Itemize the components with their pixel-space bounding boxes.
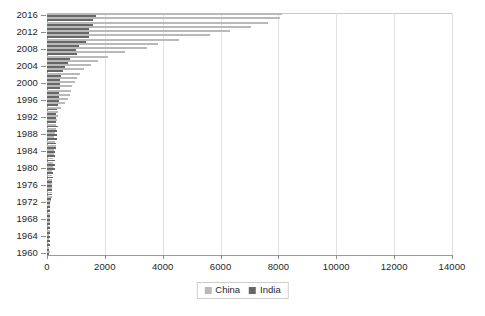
bar-india-1962 (47, 244, 50, 246)
bar-india-1992 (47, 117, 56, 119)
bar-india-1986 (47, 143, 56, 145)
y-tick-label-1988: 1988 (0, 129, 38, 138)
bar-india-1964 (47, 236, 50, 238)
bar-india-1966 (47, 227, 50, 229)
x-tick-10000 (336, 255, 337, 259)
plot-area (47, 13, 452, 255)
y-tick-2000 (41, 83, 46, 84)
bar-india-2007 (47, 53, 77, 55)
x-tick-label-12000: 12000 (381, 261, 408, 272)
x-tick-4000 (163, 255, 164, 259)
gridline-x-10000 (336, 13, 337, 255)
bar-india-1977 (47, 181, 52, 183)
x-tick-8000 (278, 255, 279, 259)
bar-india-1979 (47, 172, 53, 174)
legend-label-china: China (215, 285, 240, 295)
bar-india-1975 (47, 189, 52, 191)
x-tick-label-6000: 6000 (210, 261, 232, 272)
bar-india-1995 (47, 104, 58, 106)
y-tick-1964 (41, 236, 46, 237)
bar-india-1989 (47, 130, 57, 132)
y-tick-label-2004: 2004 (0, 61, 38, 70)
y-tick-label-2012: 2012 (0, 27, 38, 36)
gridline-x-2000 (105, 13, 106, 255)
y-tick-1972 (41, 202, 46, 203)
bar-india-1993 (47, 113, 56, 115)
bar-india-1974 (47, 194, 52, 196)
x-tick-label-8000: 8000 (268, 261, 290, 272)
gridline-x-14000 (452, 13, 453, 255)
y-tick-label-1964: 1964 (0, 231, 38, 240)
x-tick-label-2000: 2000 (94, 261, 116, 272)
bar-india-1963 (47, 240, 50, 242)
y-tick-label-1976: 1976 (0, 180, 38, 189)
y-tick-label-2008: 2008 (0, 44, 38, 53)
y-tick-1996 (41, 100, 46, 101)
bar-india-1997 (47, 96, 59, 98)
y-tick-label-2016: 2016 (0, 10, 38, 19)
bar-chart: 2016201220082004200019961992198819841980… (0, 0, 485, 316)
x-tick-12000 (394, 255, 395, 259)
bar-india-1994 (47, 109, 57, 111)
x-axis-line (47, 255, 452, 256)
bar-india-2013 (47, 28, 89, 30)
bar-india-1969 (47, 215, 50, 217)
bar-india-2010 (47, 41, 86, 43)
bar-india-2006 (47, 58, 70, 60)
bar-india-2009 (47, 45, 79, 47)
gridline-x-4000 (163, 13, 164, 255)
y-tick-2012 (41, 32, 46, 33)
bar-india-1970 (47, 210, 50, 212)
legend-swatch-icon-china (204, 287, 211, 294)
legend-item-china[interactable]: China (204, 285, 240, 295)
y-tick-1980 (41, 168, 46, 169)
y-tick-label-1980: 1980 (0, 163, 38, 172)
gridline-x-6000 (221, 13, 222, 255)
bar-india-1965 (47, 232, 50, 234)
x-tick-14000 (452, 255, 453, 259)
y-tick-label-1984: 1984 (0, 146, 38, 155)
bar-india-1991 (47, 121, 56, 123)
bar-india-2005 (47, 62, 68, 64)
bar-india-1990 (47, 126, 58, 128)
gridline-x-12000 (394, 13, 395, 255)
bar-india-1981 (47, 164, 55, 166)
bar-india-1985 (47, 147, 56, 149)
bar-india-1971 (47, 206, 50, 208)
x-tick-label-0: 0 (44, 261, 49, 272)
bar-india-1968 (47, 219, 50, 221)
bar-india-2003 (47, 70, 63, 72)
x-tick-2000 (105, 255, 106, 259)
bar-india-2008 (47, 49, 76, 51)
bar-india-2014 (47, 24, 93, 26)
y-tick-2004 (41, 66, 46, 67)
chart-legend: ChinaIndia (196, 282, 288, 299)
y-tick-label-1960: 1960 (0, 248, 38, 257)
y-tick-label-1968: 1968 (0, 214, 38, 223)
bar-india-1983 (47, 155, 55, 157)
bar-india-2001 (47, 79, 60, 81)
bar-india-2011 (47, 36, 89, 38)
x-tick-0 (47, 255, 48, 259)
bar-india-2012 (47, 32, 89, 34)
bar-india-2016 (47, 15, 96, 17)
legend-item-india[interactable]: India (249, 285, 281, 295)
legend-swatch-icon-india (249, 287, 256, 294)
bar-india-1973 (47, 198, 51, 200)
y-tick-1968 (41, 219, 46, 220)
bar-india-1967 (47, 223, 50, 225)
bar-india-2004 (47, 66, 65, 68)
bar-india-1988 (47, 134, 57, 136)
bar-india-1996 (47, 100, 59, 102)
x-tick-label-14000: 14000 (439, 261, 466, 272)
bar-india-2002 (47, 75, 61, 77)
y-tick-1960 (41, 253, 46, 254)
x-tick-label-4000: 4000 (152, 261, 174, 272)
bar-india-2000 (47, 83, 60, 85)
x-tick-6000 (221, 255, 222, 259)
bar-india-1961 (47, 249, 49, 251)
y-tick-1992 (41, 117, 46, 118)
y-tick-2016 (41, 15, 46, 16)
y-tick-1976 (41, 185, 46, 186)
bar-india-1999 (47, 87, 60, 89)
